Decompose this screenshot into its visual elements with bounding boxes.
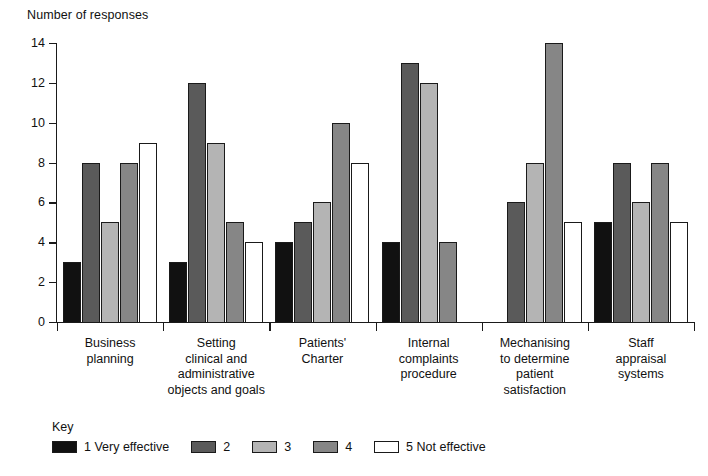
y-axis-tick-label: 2	[38, 275, 45, 289]
x-axis-separator	[482, 322, 483, 331]
bar	[420, 83, 438, 322]
legend-item: 2	[191, 440, 230, 454]
legend-swatch	[252, 441, 277, 453]
bar	[275, 242, 293, 322]
bar	[188, 83, 206, 322]
legend-swatch	[374, 441, 399, 453]
y-axis-tick	[49, 242, 57, 243]
x-axis-separator	[269, 322, 270, 331]
category-label: Settingclinical andadministrativeobjects…	[163, 336, 269, 398]
bar	[120, 163, 138, 322]
y-axis-tick	[49, 202, 57, 203]
bar	[63, 262, 81, 322]
y-axis-tick-label: 14	[31, 36, 45, 50]
bar	[613, 163, 631, 322]
bar	[594, 222, 612, 322]
legend-title: Key	[52, 420, 508, 434]
bar	[139, 143, 157, 322]
bar-group	[57, 43, 163, 322]
category-label: Internalcomplaintsprocedure	[376, 336, 482, 398]
bar-group	[163, 43, 269, 322]
bar-group	[376, 43, 482, 322]
y-axis-tick	[49, 322, 57, 323]
bar	[651, 163, 669, 322]
y-axis-tick	[49, 123, 57, 124]
y-axis-tick	[49, 83, 57, 84]
y-axis-tick	[49, 282, 57, 283]
category-label: Staffappraisalsystems	[588, 336, 694, 398]
x-axis-separator	[694, 322, 695, 331]
y-axis-tick-label: 4	[38, 235, 45, 249]
legend-item: 4	[313, 440, 352, 454]
y-axis-tick-label: 10	[31, 116, 45, 130]
plot-area: 02468101214	[57, 43, 694, 322]
x-axis-separator	[163, 322, 164, 331]
bar-group	[269, 43, 375, 322]
legend-item: 3	[252, 440, 291, 454]
legend-items: 1 Very effective2345 Not effective	[52, 440, 508, 454]
y-axis-tick-label: 6	[38, 195, 45, 209]
legend-item-label: 4	[345, 440, 352, 454]
bar	[439, 242, 457, 322]
x-axis-separator	[588, 322, 589, 331]
bar	[207, 143, 225, 322]
bar	[507, 202, 525, 322]
bar	[294, 222, 312, 322]
category-label: Businessplanning	[57, 336, 163, 398]
bar-group	[482, 43, 588, 322]
x-axis-separator	[376, 322, 377, 331]
y-axis-tick	[49, 43, 57, 44]
legend-swatch	[313, 441, 338, 453]
bar	[245, 242, 263, 322]
y-axis-tick-label: 8	[38, 156, 45, 170]
category-label: Patients'Charter	[269, 336, 375, 398]
bar	[401, 63, 419, 322]
bar	[169, 262, 187, 322]
bar	[101, 222, 119, 322]
bar	[670, 222, 688, 322]
bar	[632, 202, 650, 322]
bar-chart: Number of responses 02468101214 Business…	[0, 0, 708, 476]
category-labels: BusinessplanningSettingclinical andadmin…	[57, 336, 694, 398]
bar	[382, 242, 400, 322]
bar	[545, 43, 563, 322]
bar-groups	[57, 43, 694, 322]
legend: Key 1 Very effective2345 Not effective	[52, 420, 508, 454]
bar	[526, 163, 544, 322]
legend-item-label: 5 Not effective	[406, 440, 486, 454]
bar	[226, 222, 244, 322]
legend-item: 5 Not effective	[374, 440, 486, 454]
legend-item: 1 Very effective	[52, 440, 169, 454]
x-axis-separator	[57, 322, 58, 331]
y-axis-tick-label: 12	[31, 76, 45, 90]
bar	[313, 202, 331, 322]
bar	[82, 163, 100, 322]
bar	[351, 163, 369, 322]
y-axis-tick-label: 0	[38, 315, 45, 329]
bar-group	[588, 43, 694, 322]
category-label: Mechanisingto determinepatientsatisfacti…	[482, 336, 588, 398]
legend-swatch	[52, 441, 77, 453]
legend-item-label: 3	[284, 440, 291, 454]
y-axis-tick	[49, 163, 57, 164]
legend-item-label: 2	[223, 440, 230, 454]
legend-item-label: 1 Very effective	[84, 440, 169, 454]
bar	[564, 222, 582, 322]
legend-swatch	[191, 441, 216, 453]
bar	[332, 123, 350, 322]
y-axis-title: Number of responses	[27, 8, 148, 22]
